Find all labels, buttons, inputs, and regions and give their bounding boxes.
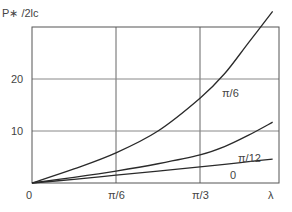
x-tick-pi3: π/3	[192, 190, 209, 201]
x-tick-pi6: π/6	[108, 190, 125, 201]
y-axis-label: P∗ /2lc	[2, 8, 39, 19]
curve-label-pi12: π/12	[238, 153, 261, 164]
curve-label-0: 0	[230, 170, 236, 181]
y-tick-10: 10	[11, 126, 23, 137]
curve-label-pi6: π/6	[222, 88, 239, 99]
y-tick-20: 20	[11, 74, 23, 85]
x-axis-label: λ	[268, 190, 274, 201]
chart-plot	[0, 0, 292, 212]
x-tick-0: 0	[26, 190, 32, 201]
